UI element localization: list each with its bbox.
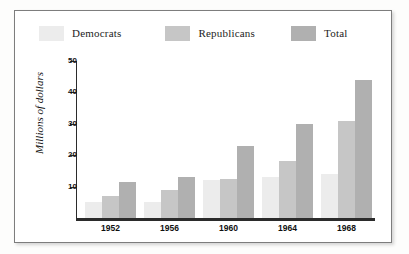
y-tick-label: 50 <box>35 56 77 65</box>
y-tick-label: 40 <box>35 87 77 96</box>
bar-total-1964[interactable] <box>296 124 313 218</box>
bar-democrats-1960[interactable] <box>203 180 220 218</box>
bar-democrats-1956[interactable] <box>144 202 161 218</box>
y-axis-line <box>76 61 77 219</box>
x-tick-label-1968: 1968 <box>317 223 377 233</box>
y-tick-label: 20 <box>35 150 77 159</box>
bar-group-bars <box>144 61 195 218</box>
bar-total-1960[interactable] <box>237 146 254 218</box>
bar-group-bars <box>85 61 136 218</box>
bar-group-bars <box>262 61 313 218</box>
bar-total-1956[interactable] <box>178 177 195 218</box>
bar-republicans-1968[interactable] <box>338 121 355 218</box>
bar-group-bars <box>321 61 372 218</box>
bar-group-bars <box>203 61 254 218</box>
bar-democrats-1952[interactable] <box>85 202 102 218</box>
bar-republicans-1960[interactable] <box>220 179 237 218</box>
x-tick-label-1960: 1960 <box>199 223 259 233</box>
bar-republicans-1964[interactable] <box>279 161 296 218</box>
x-tick-label-1964: 1964 <box>258 223 318 233</box>
figure-canvas: DemocratsRepublicansTotal Millions of do… <box>0 0 409 254</box>
bar-democrats-1968[interactable] <box>321 174 338 218</box>
bar-republicans-1956[interactable] <box>161 190 178 218</box>
plot-area: Millions of dollars 1020304050 195219561… <box>15 11 393 244</box>
bar-total-1952[interactable] <box>119 182 136 218</box>
chart-frame-border: DemocratsRepublicansTotal Millions of do… <box>14 10 392 243</box>
bar-total-1968[interactable] <box>355 80 372 218</box>
y-tick-label: 10 <box>35 182 77 191</box>
x-tick-label-1956: 1956 <box>140 223 200 233</box>
bar-republicans-1952[interactable] <box>102 196 119 218</box>
x-tick-label-1952: 1952 <box>81 223 141 233</box>
bar-democrats-1964[interactable] <box>262 177 279 218</box>
y-tick-label: 30 <box>35 119 77 128</box>
x-axis-line <box>76 218 375 221</box>
